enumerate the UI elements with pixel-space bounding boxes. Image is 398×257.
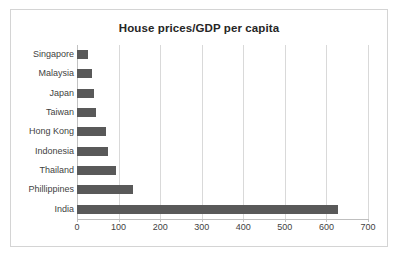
bar (77, 166, 116, 175)
x-axis-tick-label: 200 (153, 222, 168, 232)
bar (77, 147, 108, 156)
y-axis-label: Malaysia (19, 64, 74, 83)
y-axis-label: Japan (19, 84, 74, 103)
y-axis-label: Phillippines (19, 180, 74, 199)
bar-row (77, 64, 368, 83)
bar-row (77, 180, 368, 199)
y-axis-label: Indonesia (19, 142, 74, 161)
y-axis-label: Taiwan (19, 103, 74, 122)
bar-row (77, 122, 368, 141)
x-axis-tick-label: 700 (360, 222, 375, 232)
bar-row (77, 84, 368, 103)
bar (77, 50, 88, 59)
y-axis-label: India (19, 200, 74, 219)
bar (77, 185, 133, 194)
bar-row (77, 200, 368, 219)
bar (77, 127, 106, 136)
x-axis-tick-labels: 0100200300400500600700 (77, 222, 368, 238)
y-axis-label: Thailand (19, 161, 74, 180)
chart-title: House prices/GDP per capita (11, 22, 387, 34)
y-axis-label: Singapore (19, 45, 74, 64)
x-axis-tick-label: 300 (194, 222, 209, 232)
y-axis-label: Hong Kong (19, 122, 74, 141)
x-axis-tick-label: 400 (236, 222, 251, 232)
bar (77, 89, 94, 98)
bar-row (77, 103, 368, 122)
bar-row (77, 161, 368, 180)
x-axis-tick-label: 600 (319, 222, 334, 232)
bar (77, 205, 338, 214)
bar-series (77, 45, 368, 219)
gridline-700 (368, 45, 369, 219)
bar (77, 69, 92, 78)
bar-row (77, 45, 368, 64)
bar (77, 108, 96, 117)
plot-area (77, 45, 368, 219)
x-axis-tick-label: 0 (74, 222, 79, 232)
x-axis-tick-label: 500 (277, 222, 292, 232)
x-axis-tick-label: 100 (111, 222, 126, 232)
bar-row (77, 142, 368, 161)
x-axis-line (77, 219, 368, 220)
y-axis-category-labels: SingaporeMalaysiaJapanTaiwanHong KongInd… (19, 45, 74, 219)
chart-container: House prices/GDP per capita SingaporeMal… (10, 9, 388, 247)
